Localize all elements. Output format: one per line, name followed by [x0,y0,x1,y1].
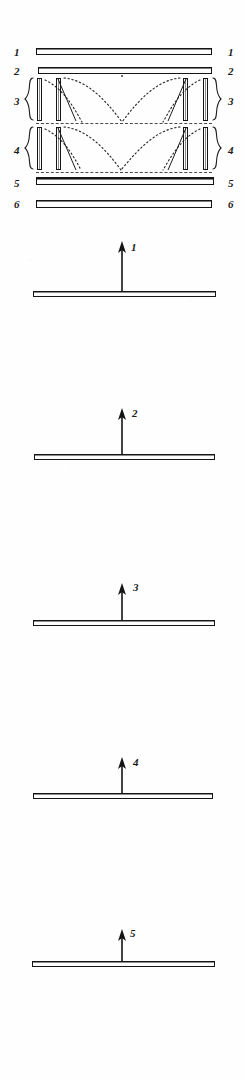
brace-right-group-4 [213,127,221,169]
right-label-1: 1 [228,47,234,58]
left-label-6: 6 [14,199,20,210]
panel-5: 5 [0,850,244,1010]
left-label-3: 3 [14,96,20,107]
panel-2-plate [34,454,215,460]
brace-left-group-4 [25,127,33,169]
assembly-layer-4-post-2 [56,127,61,170]
layered-assembly-diagram: 1 2 3 4 5 6 1 2 3 4 5 6 [0,0,244,230]
assembly-layer-3-post-3 [183,78,188,121]
arc-band4-left-outer [45,129,81,170]
panel-3-arrow-label: 3 [133,582,139,593]
right-label-5: 5 [228,178,234,189]
left-label-2: 2 [14,66,20,77]
assembly-layer-3-post-4 [203,78,208,121]
panel-5-arrow-label: 5 [130,928,136,939]
technical-figure: 1 2 3 4 5 6 1 2 3 4 5 6 [0,0,244,1081]
brace-right-group-3 [213,78,221,120]
arc-band4-left-inner [64,127,121,170]
left-label-1: 1 [14,47,20,58]
panel-4-arrow-label: 4 [133,757,139,768]
scan-speck [121,75,123,77]
right-label-3: 3 [228,96,234,107]
assembly-layer-6-plate [36,200,212,208]
arc-band3-left-inner [64,78,122,122]
panel-3: 3 [0,545,244,690]
arc-band4-right-outer [163,129,200,170]
assembly-layer-3-post-2 [56,78,61,121]
panel-4: 4 [0,690,244,850]
panel-3-plate [33,620,215,626]
right-label-4: 4 [228,145,234,156]
up-arrow-icon-4 [112,756,132,796]
arc-band3-right-outer [163,80,200,122]
assembly-layer-4-post-1 [37,127,42,170]
left-label-5: 5 [14,178,20,189]
right-label-6: 6 [228,199,234,210]
right-label-2: 2 [228,66,234,77]
band-separator-rule-upper [36,123,212,124]
up-arrow-icon-5 [112,928,132,964]
assembly-layer-5-plate [36,177,214,185]
assembly-layer-2-plate [38,67,212,74]
panel-1: 1 [0,230,244,385]
up-arrow-icon-2 [112,407,132,455]
assembly-layer-1-plate [36,48,212,55]
panel-2-arrow-label: 2 [132,408,138,419]
left-label-4: 4 [14,145,20,156]
assembly-layer-4-post-4 [203,127,208,170]
panel-5-plate [32,961,215,967]
panel-4-plate [33,793,213,799]
panel-1-plate [33,291,216,297]
arc-band4-right-inner [121,127,180,170]
brace-left-group-3 [25,78,33,120]
assembly-layer-3-post-1 [37,78,42,121]
assembly-layer-4-post-3 [183,127,188,170]
up-arrow-icon-1 [112,240,132,292]
arc-band3-right-inner [122,78,180,122]
arc-band3-left-outer [45,80,82,122]
panel-1-arrow-label: 1 [131,242,137,253]
panel-2: 2 [0,385,244,545]
band-separator-rule-lower [36,172,212,173]
